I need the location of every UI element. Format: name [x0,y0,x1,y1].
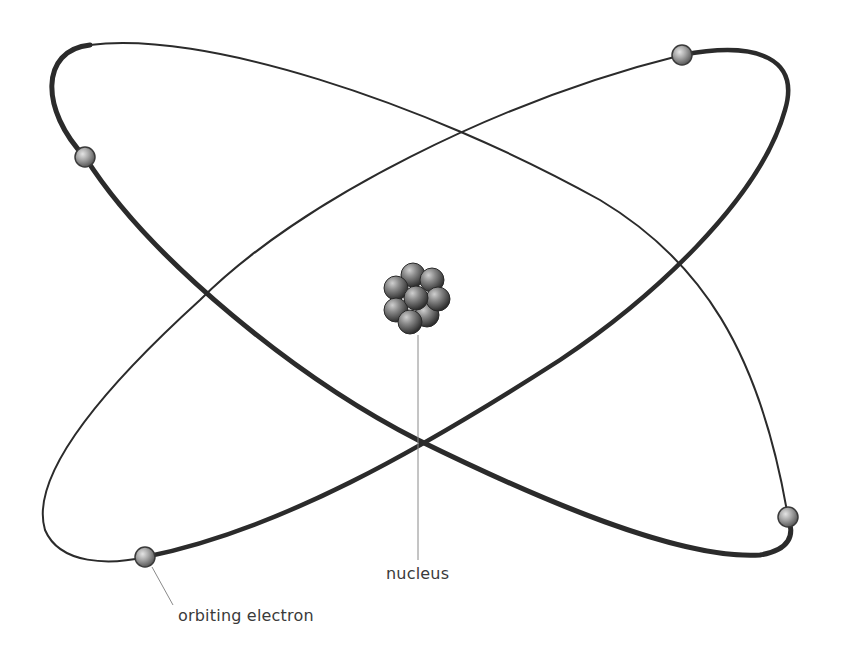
electron-top-right [672,45,692,65]
nucleus-label: nucleus [386,564,449,583]
electron-bottom-left [135,547,155,567]
electron-label: orbiting electron [178,606,314,625]
electron-bottom-right [778,507,798,527]
electron-top-left [75,147,95,167]
nucleus [384,263,450,334]
electron-leader-line [152,567,173,605]
